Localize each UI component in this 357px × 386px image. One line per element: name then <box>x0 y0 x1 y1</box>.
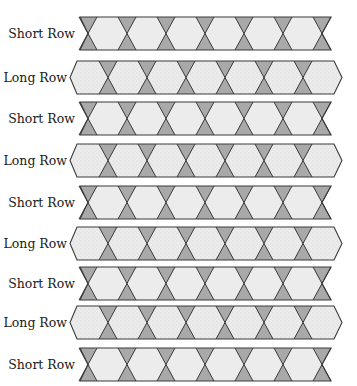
long-row: Long Row <box>4 227 343 260</box>
short-row: Short Row <box>8 267 331 300</box>
short-row: Short Row <box>8 102 331 135</box>
row-label: Long Row <box>4 153 68 168</box>
row-label: Short Row <box>8 195 75 210</box>
row-label: Short Row <box>8 26 75 41</box>
row-label: Long Row <box>4 70 68 85</box>
row-label: Long Row <box>4 315 68 330</box>
row-label: Short Row <box>8 111 75 126</box>
rows-layer: Short RowLong RowShort RowLong RowShort … <box>4 17 343 381</box>
row-label: Short Row <box>8 357 75 372</box>
long-row: Long Row <box>4 306 343 339</box>
long-row: Long Row <box>4 144 343 177</box>
short-row: Short Row <box>8 348 331 381</box>
short-row: Short Row <box>8 17 331 50</box>
long-row: Long Row <box>4 61 343 94</box>
row-label: Short Row <box>8 276 75 291</box>
short-row: Short Row <box>8 186 331 219</box>
row-pattern-diagram: Short RowLong RowShort RowLong RowShort … <box>0 0 357 386</box>
row-label: Long Row <box>4 236 68 251</box>
